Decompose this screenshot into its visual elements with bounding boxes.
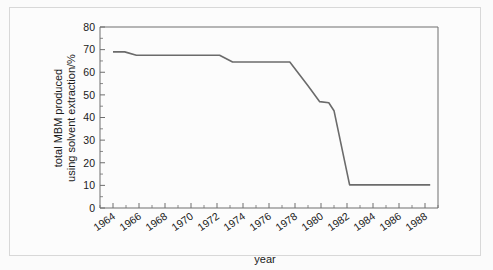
y-tick-label: 80 xyxy=(83,21,95,33)
x-tick-label: 1984 xyxy=(351,210,377,233)
y-axis-ticks xyxy=(100,27,105,208)
plot-frame xyxy=(100,27,438,208)
y-tick-label: 40 xyxy=(83,111,95,123)
chart-figure: 01020304050607080 1964196619681970197219… xyxy=(0,0,493,270)
y-tick-label: 70 xyxy=(83,43,95,55)
x-tick-label: 1964 xyxy=(91,210,117,233)
x-tick-label: 1988 xyxy=(403,210,429,233)
data-series-group xyxy=(113,52,430,185)
y-tick-label: 50 xyxy=(83,89,95,101)
x-axis-tick-labels: 1964196619681970197219741976197819801982… xyxy=(91,210,429,233)
x-tick-label: 1986 xyxy=(377,210,403,233)
x-tick-label: 1972 xyxy=(195,210,221,233)
line-chart-svg: 01020304050607080 1964196619681970197219… xyxy=(0,0,493,270)
y-axis-title-line2: using solvent extraction/% xyxy=(65,54,77,182)
x-tick-label: 1982 xyxy=(325,210,351,233)
x-tick-label: 1980 xyxy=(299,210,325,233)
x-tick-label: 1976 xyxy=(247,210,273,233)
x-tick-label: 1968 xyxy=(143,210,169,233)
x-tick-label: 1966 xyxy=(117,210,143,233)
y-tick-label: 0 xyxy=(89,202,95,214)
y-tick-label: 30 xyxy=(83,134,95,146)
x-tick-label: 1978 xyxy=(273,210,299,233)
y-tick-label: 20 xyxy=(83,157,95,169)
y-tick-label: 10 xyxy=(83,179,95,191)
x-axis-ticks xyxy=(100,203,438,208)
y-tick-label: 60 xyxy=(83,66,95,78)
x-tick-label: 1974 xyxy=(221,210,247,233)
y-axis-title-line1: total MBM produced xyxy=(52,69,64,167)
x-tick-label: 1970 xyxy=(169,210,195,233)
series-line-solvent-extraction xyxy=(113,52,430,185)
x-axis-title: year xyxy=(254,253,276,265)
y-axis-tick-labels: 01020304050607080 xyxy=(83,21,95,214)
